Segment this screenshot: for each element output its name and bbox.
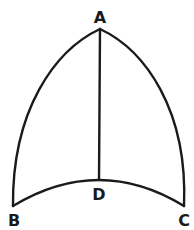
label-b: B <box>8 211 20 230</box>
arch-diagram: A B D C <box>0 0 194 230</box>
label-c: C <box>178 211 190 230</box>
line-ad <box>99 29 100 180</box>
arc-ac <box>100 29 184 206</box>
label-a: A <box>94 8 107 27</box>
label-d: D <box>92 185 105 204</box>
